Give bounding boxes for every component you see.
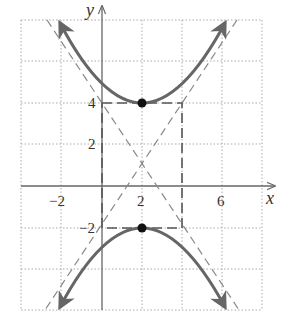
y-axis-label: y [84,0,94,20]
y-tick-4: 4 [88,95,96,111]
hyperbola-chart: y x −2 2 6 4 2 −2 [0,0,291,329]
x-axis-label: x [265,188,274,208]
y-tick-minus2: −2 [79,220,95,236]
y-tick-2: 2 [88,136,96,152]
vertex-upper [138,99,147,108]
lower-branch [60,228,225,307]
x-tick-minus2: −2 [49,193,65,209]
x-tick-6: 6 [217,193,225,209]
x-tick-2: 2 [137,193,145,209]
vertex-lower [138,224,147,233]
